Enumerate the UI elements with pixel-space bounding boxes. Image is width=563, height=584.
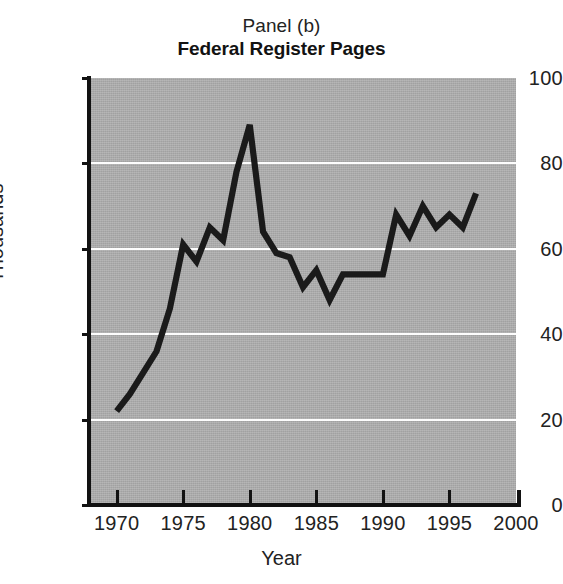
chart-figure: Panel (b) Federal Register Pages 0204060…: [0, 0, 563, 584]
page-title: Federal Register Pages: [0, 37, 563, 60]
x-tick-mark-1975: [182, 490, 185, 505]
y-axis-line: [87, 76, 91, 507]
y-tick-label-100: 100: [489, 68, 563, 88]
x-tick-mark-1985: [315, 490, 318, 505]
plot-area: [90, 78, 516, 505]
panel-label: Panel (b): [0, 14, 563, 37]
x-tick-mark-1970: [116, 490, 119, 505]
y-tick-mark-40: [82, 333, 91, 336]
y-tick-label-80: 80: [489, 153, 563, 173]
x-axis-line: [87, 503, 521, 507]
x-tick-mark-1990: [382, 490, 385, 505]
y-tick-mark-80: [82, 162, 91, 165]
y-tick-mark-0: [82, 504, 91, 507]
chart-title-block: Panel (b) Federal Register Pages: [0, 14, 563, 60]
x-tick-mark-1980: [249, 490, 252, 505]
x-tick-label-2000: 2000: [476, 512, 556, 534]
y-axis-label: Thousands: [0, 133, 7, 333]
x-tick-mark-1995: [448, 490, 451, 505]
y-tick-label-40: 40: [489, 324, 563, 344]
x-axis-label: Year: [0, 547, 563, 569]
y-tick-mark-60: [82, 248, 91, 251]
y-tick-label-20: 20: [489, 410, 563, 430]
y-tick-label-60: 60: [489, 239, 563, 259]
series-line-federal-register-pages: [117, 125, 476, 411]
y-tick-mark-20: [82, 419, 91, 422]
series-layer: [90, 78, 516, 505]
y-tick-mark-100: [82, 77, 91, 80]
